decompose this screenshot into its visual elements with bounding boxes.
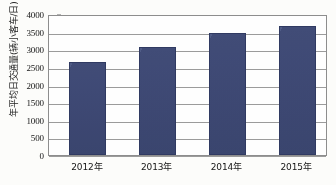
chart-figure: 年平均日交通量(辆小客车/日) 050010001500200025003000… [0, 0, 336, 185]
x-axis-tick-label: 2015年 [280, 160, 311, 173]
y-axis-tick-label: 1000 [12, 116, 44, 126]
y-axis-tick-labels: 05001000150020002500300035004000 [12, 15, 44, 156]
plot-area [48, 15, 327, 156]
y-axis-tick-label: 0 [12, 151, 44, 161]
bar [209, 33, 246, 155]
y-axis-tick-label: 3000 [12, 45, 44, 55]
bar [69, 62, 106, 155]
bar [139, 47, 176, 155]
bar-series [49, 16, 326, 155]
x-axis-tick-label: 2013年 [141, 160, 172, 173]
x-axis-tick-labels: 2012年2013年2014年2015年 [48, 160, 327, 176]
x-axis-tick-label: 2012年 [71, 160, 102, 173]
x-axis-tick-label: 2014年 [211, 160, 242, 173]
y-axis-tick-label: 2000 [12, 81, 44, 91]
y-axis-tick-label: 3500 [12, 28, 44, 38]
y-axis-tick-label: 1500 [12, 98, 44, 108]
y-axis-tick-label: 500 [12, 133, 44, 143]
gridline [49, 156, 326, 157]
y-axis-tick-label: 2500 [12, 63, 44, 73]
bar [279, 26, 316, 155]
y-axis-tick-label: 4000 [12, 10, 44, 20]
